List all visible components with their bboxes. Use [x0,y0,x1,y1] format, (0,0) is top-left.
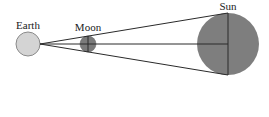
sun-label: Sun [219,0,237,12]
earth-circle [16,32,40,56]
earth-label: Earth [16,19,40,31]
moon-label: Moon [75,21,102,33]
eclipse-diagram: Earth Moon Sun [0,0,269,117]
